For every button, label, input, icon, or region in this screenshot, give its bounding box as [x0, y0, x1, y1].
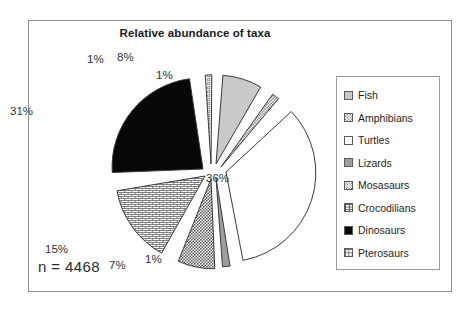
legend-label-crocodilians: Crocodilians: [358, 203, 416, 214]
legend: Fish Amphibians Turtles Lizards Mosasaur…: [336, 76, 440, 270]
slice-label-turtles: 36%: [206, 172, 229, 184]
legend-item-turtles: Turtles: [344, 129, 439, 152]
slice-label-lizards: 1%: [145, 253, 162, 265]
page-title: Relative abundance of taxa: [60, 27, 330, 39]
legend-label-turtles: Turtles: [358, 135, 390, 146]
legend-label-amphibians: Amphibians: [358, 113, 413, 124]
legend-item-pterosaurs: Pterosaurs: [344, 242, 439, 265]
pie-slice-turtles: [226, 112, 316, 261]
legend-label-pterosaurs: Pterosaurs: [358, 248, 409, 259]
legend-swatch-crocodilians: [344, 203, 353, 212]
slice-label-mosasaurs: 7%: [109, 259, 126, 271]
legend-swatch-dinosaurs: [344, 226, 353, 235]
pie-slices-svg: [95, 50, 330, 285]
legend-swatch-pterosaurs: [344, 248, 353, 257]
pie-slice-dinosaurs: [112, 79, 203, 173]
slice-label-amphibians: 1%: [156, 69, 173, 81]
legend-label-mosasaurs: Mosasaurs: [358, 180, 409, 191]
legend-label-fish: Fish: [358, 90, 378, 101]
legend-swatch-turtles: [344, 136, 353, 145]
legend-item-fish: Fish: [344, 84, 439, 107]
figure-canvas: Relative abundance of taxa: [0, 0, 475, 311]
legend-swatch-mosasaurs: [344, 181, 353, 190]
slice-label-dinosaurs: 31%: [10, 105, 33, 117]
legend-item-amphibians: Amphibians: [344, 107, 439, 130]
pie-slice-pterosaurs: [205, 75, 212, 164]
legend-item-mosasaurs: Mosasaurs: [344, 174, 439, 197]
slice-label-pterosaurs: 1%: [87, 53, 104, 65]
legend-label-dinosaurs: Dinosaurs: [358, 225, 405, 236]
slice-label-fish: 8%: [117, 51, 134, 63]
legend-label-lizards: Lizards: [358, 158, 392, 169]
pie-chart-plot: 1% 8% 1% 36% 1% 7% 15% 31%: [95, 50, 330, 285]
legend-item-dinosaurs: Dinosaurs: [344, 219, 439, 242]
pie-slice-lizards: [216, 178, 230, 267]
legend-swatch-lizards: [344, 158, 353, 167]
legend-item-crocodilians: Crocodilians: [344, 197, 439, 220]
legend-item-lizards: Lizards: [344, 152, 439, 175]
slice-label-crocodilians: 15%: [45, 243, 68, 255]
legend-swatch-amphibians: [344, 113, 353, 122]
sample-size-annotation: n = 4468: [38, 258, 100, 275]
legend-swatch-fish: [344, 91, 353, 100]
